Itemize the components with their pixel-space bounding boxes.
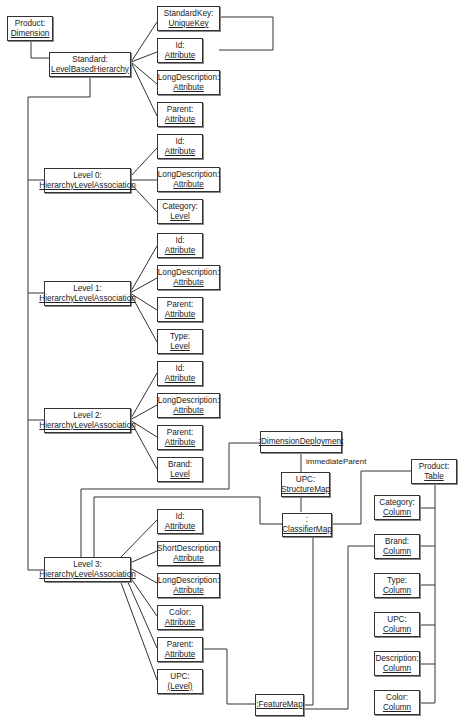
node-name: UPC: xyxy=(170,672,190,682)
node-name: Id: xyxy=(175,137,184,147)
level0-longdesc-node[interactable]: LongDescription: Attribute xyxy=(157,167,220,192)
level3-longdesc-node[interactable]: LongDescription: Attribute xyxy=(157,573,220,598)
level2-parent-node[interactable]: Parent: Attribute xyxy=(157,425,203,450)
node-name: UPC: xyxy=(296,475,316,485)
node-type: (Level) xyxy=(167,682,192,692)
connector xyxy=(131,52,157,62)
node-type: Attribute xyxy=(173,586,204,596)
node-name: Level 2: xyxy=(73,411,102,421)
level3-upc-node[interactable]: UPC: (Level) xyxy=(157,669,203,694)
node-type: Attribute xyxy=(165,650,196,660)
node-name: LongDescription: xyxy=(158,170,219,180)
node-name: Color: xyxy=(169,608,191,618)
node-name: Parent: xyxy=(167,428,193,438)
level2-id-node[interactable]: Id: Attribute xyxy=(157,361,203,386)
node-type: Attribute xyxy=(165,147,196,157)
level1-node[interactable]: Level 1: HierarchyLevelAssociation xyxy=(44,281,131,306)
node-name: Type: xyxy=(387,576,407,586)
level2-longdesc-node[interactable]: LongDescription: Attribute xyxy=(157,393,220,418)
column-upc-node[interactable]: UPC: Column xyxy=(374,612,420,637)
node-name: Standard: xyxy=(72,55,108,65)
level2-node[interactable]: Level 2: HierarchyLevelAssociation xyxy=(44,408,131,433)
node-type: Dimension xyxy=(11,29,50,39)
level1-longdesc-node[interactable]: LongDescription: Attribute xyxy=(157,265,220,290)
product-dimension-node[interactable]: Product: Dimension xyxy=(7,16,53,41)
level3-node[interactable]: Level 3: HierarchyLevelAssociation xyxy=(44,557,131,582)
level0-id-node[interactable]: Id: Attribute xyxy=(157,134,203,159)
column-brand-node[interactable]: Brand: Column xyxy=(374,534,420,559)
node-name: Parent: xyxy=(167,640,193,650)
product-table-node[interactable]: Product: Table xyxy=(411,459,457,484)
node-name: Id: xyxy=(175,41,184,51)
node-name: Id: xyxy=(175,236,184,246)
connector xyxy=(219,17,273,50)
node-type: Attribute xyxy=(173,278,204,288)
connector xyxy=(303,546,374,709)
node-type: Column xyxy=(383,664,411,674)
level3-id-node[interactable]: Id: Attribute xyxy=(157,509,203,534)
node-type: ClassifierMap xyxy=(282,525,332,535)
level0-node[interactable]: Level 0: HierarchyLevelAssociation xyxy=(44,168,131,193)
classifiermap-node[interactable]: : ClassifierMap xyxy=(282,513,332,537)
node-name: Brand: xyxy=(168,460,192,470)
level1-parent-node[interactable]: Parent: Attribute xyxy=(157,297,203,322)
node-type: Table xyxy=(424,472,444,482)
standard-longdesc-node[interactable]: LongDescription: Attribute xyxy=(157,70,220,95)
node-type: HierarchyLevelAssociation xyxy=(39,294,135,304)
level2-brand-node[interactable]: Brand: Level xyxy=(157,457,203,482)
node-type: Attribute xyxy=(165,310,196,320)
connector xyxy=(131,62,157,116)
node-name: Category: xyxy=(162,202,198,212)
connector xyxy=(131,22,157,62)
standard-id-node[interactable]: Id: Attribute xyxy=(157,38,203,63)
node-type: :DimensionDeployment xyxy=(259,437,344,447)
node-type: Level xyxy=(170,342,190,352)
node-name: Id: xyxy=(175,364,184,374)
connector xyxy=(130,148,157,177)
immediate-parent-label: immediateParent xyxy=(306,457,366,466)
level3-color-node[interactable]: Color: Attribute xyxy=(157,605,203,630)
node-name: LongDescription: xyxy=(158,396,219,406)
node-type: Column xyxy=(383,625,411,635)
level0-category-node[interactable]: Category: Level xyxy=(157,199,203,224)
standard-parent-node[interactable]: Parent: Attribute xyxy=(157,102,203,127)
standard-hierarchy-node[interactable]: Standard: LevelBasedHierarchy xyxy=(49,52,131,77)
column-category-node[interactable]: Category: Column xyxy=(374,495,420,520)
node-name: Color: xyxy=(386,693,408,703)
node-type: Attribute xyxy=(165,115,196,125)
standardkey-node[interactable]: StandardKey: UniqueKey xyxy=(157,6,220,31)
node-type: Level xyxy=(170,212,190,222)
level3-parent-node[interactable]: Parent: Attribute xyxy=(157,637,203,662)
dimension-deployment-node[interactable]: :DimensionDeployment xyxy=(260,431,342,453)
upc-structuremap-node[interactable]: UPC: StructureMap xyxy=(281,472,330,497)
connector xyxy=(420,482,435,703)
node-name: UPC: xyxy=(387,615,407,625)
node-name: Category: xyxy=(379,498,415,508)
column-description-node[interactable]: Description: Column xyxy=(374,651,420,676)
level1-type-node[interactable]: Type: Level xyxy=(157,329,203,354)
connector xyxy=(303,536,313,705)
node-type: Attribute xyxy=(173,554,204,564)
connector xyxy=(203,649,255,704)
node-name: Description: xyxy=(375,654,418,664)
node-name: Brand: xyxy=(385,537,409,547)
node-name: LongDescription: xyxy=(158,268,219,278)
node-name: Level 1: xyxy=(73,284,102,294)
node-type: Attribute xyxy=(173,83,204,93)
connector xyxy=(127,580,157,648)
node-type: Level xyxy=(170,470,190,480)
node-name: Product: xyxy=(15,19,46,29)
column-type-node[interactable]: Type: Column xyxy=(374,573,420,598)
node-type: Attribute xyxy=(165,246,196,256)
node-type: Attribute xyxy=(165,618,196,628)
node-name: StandardKey: xyxy=(164,9,214,19)
node-type: HierarchyLevelAssociation xyxy=(39,421,135,431)
level3-shortdesc-node[interactable]: ShortDescription: Attribute xyxy=(157,541,220,566)
node-type: Column xyxy=(383,703,411,713)
node-type: Column xyxy=(383,508,411,518)
node-type: Column xyxy=(383,547,411,557)
node-type: UniqueKey xyxy=(168,19,208,29)
column-color-node[interactable]: Color: Column xyxy=(374,690,420,715)
featuremap-node[interactable]: :FeatureMap xyxy=(255,694,304,716)
level1-id-node[interactable]: Id: Attribute xyxy=(157,233,203,258)
